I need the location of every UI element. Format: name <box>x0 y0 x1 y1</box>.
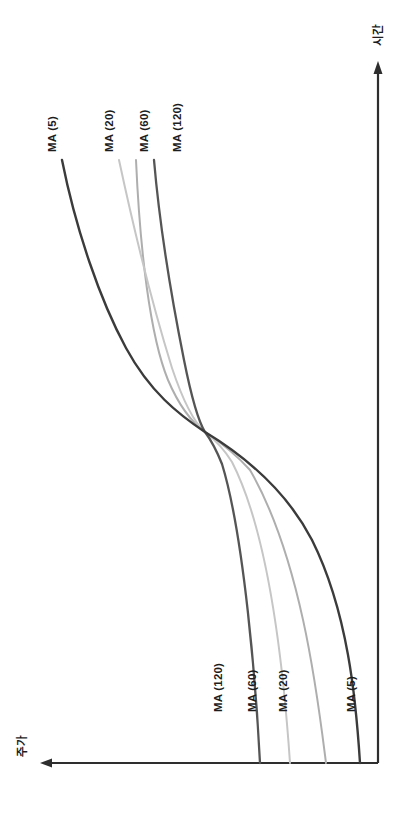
time-axis-label: 시간 <box>371 24 384 46</box>
series-line-ma20 <box>119 160 290 763</box>
series-line-ma5 <box>62 160 360 763</box>
series-line-ma60 <box>154 160 260 763</box>
series-labels-bottom-group: MA (120) MA (60) MA (20) MA (5) <box>212 663 357 712</box>
series-label-top-ma60: MA (60) <box>138 109 150 152</box>
series-label-bottom-ma60: MA (60) <box>246 669 258 712</box>
series-label-top-ma20: MA (20) <box>103 109 115 152</box>
series-label-bottom-ma5: MA (5) <box>345 676 357 712</box>
axis-labels-group: 주가 시간 <box>15 24 384 757</box>
axes-group <box>40 61 383 768</box>
series-label-top-ma120: MA (120) <box>171 103 183 152</box>
series-label-bottom-ma20: MA (20) <box>277 669 289 712</box>
time-axis-arrowhead <box>374 61 383 74</box>
price-axis-label: 주가 <box>15 735 28 757</box>
series-label-bottom-ma120: MA (120) <box>212 663 224 712</box>
price-axis-arrowhead <box>40 759 52 768</box>
series-label-top-ma5: MA (5) <box>46 116 58 152</box>
series-group <box>62 160 360 763</box>
chart-canvas: 주가 시간 MA (5) MA (20) MA (60) MA (120) MA… <box>0 0 407 839</box>
series-labels-top-group: MA (5) MA (20) MA (60) MA (120) <box>46 103 183 152</box>
moving-average-chart: 주가 시간 MA (5) MA (20) MA (60) MA (120) MA… <box>0 0 407 839</box>
